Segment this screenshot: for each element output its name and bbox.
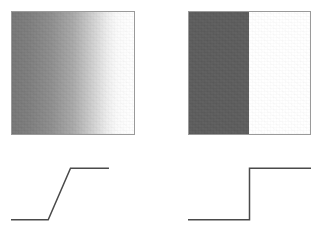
ramp-intensity-profile-plot	[0, 150, 160, 242]
step-light-region	[249, 12, 310, 134]
step-profile-line	[188, 168, 311, 220]
step-intensity-profile-plot	[177, 150, 323, 242]
ramp-profile-line	[11, 168, 109, 220]
figure-root	[0, 0, 323, 242]
gradient-fill	[12, 12, 134, 134]
step-profile-svg	[177, 150, 323, 242]
step-square-stimulus	[188, 11, 311, 135]
gradient-square-stimulus	[11, 11, 135, 135]
ramp-profile-svg	[0, 150, 160, 242]
step-dark-region	[189, 12, 249, 134]
